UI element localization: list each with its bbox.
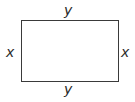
label-left-side: x bbox=[6, 45, 14, 59]
label-bottom-side: y bbox=[64, 82, 72, 96]
rectangle bbox=[21, 20, 119, 82]
label-top-side: y bbox=[64, 3, 72, 17]
label-right-side: x bbox=[121, 45, 129, 59]
